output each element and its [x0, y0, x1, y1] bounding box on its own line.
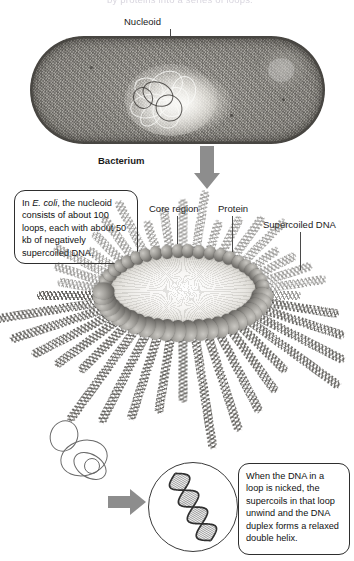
label-core-region: Core region	[149, 203, 199, 214]
label-nucleoid: Nucleoid	[124, 16, 161, 27]
down-arrow-icon-bacterium	[190, 146, 224, 190]
bacterium-micrograph	[30, 36, 325, 144]
right-arrow-icon-magnifier	[108, 489, 154, 515]
callout-left-pre: In	[22, 198, 32, 208]
dna-loop	[179, 335, 188, 403]
relaxed-double-helix	[149, 463, 237, 551]
label-bacterium: Bacterium	[98, 155, 144, 166]
callout-nicked-dna: When the DNA in a loop is nicked, the su…	[238, 463, 350, 555]
magnifier-circle	[148, 462, 238, 552]
nucleoid-rosette	[8, 225, 346, 440]
top-caption: by proteins into a series of loops.	[55, 0, 305, 6]
protein-bead	[92, 283, 114, 300]
label-protein: Protein	[218, 203, 248, 214]
relaxed-dna-strand	[38, 418, 158, 498]
figure-canvas: by proteins into a series of loops. Nucl…	[0, 0, 354, 561]
double-helix-drawing	[149, 463, 237, 551]
callout-left-italic: E. coli	[32, 198, 57, 208]
